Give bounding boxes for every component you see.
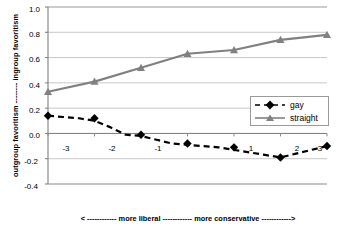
chart-figure: outgroup favoritism -------- ingroup fav… [0, 0, 338, 234]
legend-item-straight[interactable]: straight [253, 111, 318, 124]
legend-label-straight: straight [287, 113, 318, 123]
x-axis-label: < ------------ more liberal ------------… [48, 214, 328, 223]
legend: gay straight [250, 96, 329, 126]
legend-swatch-gay [253, 99, 287, 111]
legend-item-gay[interactable]: gay [253, 98, 304, 111]
legend-label-gay: gay [287, 100, 304, 110]
legend-swatch-straight [253, 112, 287, 124]
